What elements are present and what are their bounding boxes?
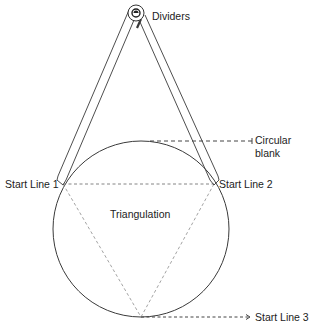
start-line-3-label: Start Line 3 (255, 311, 309, 323)
circular-blank-label-line2: blank (255, 147, 280, 159)
dividers-label: Dividers (152, 10, 190, 22)
cropped-caption-fragment (0, 0, 312, 3)
circular-blank (53, 141, 229, 317)
start-line-2-label: Start Line 2 (219, 178, 273, 190)
start-line-1-label: Start Line 1 (5, 178, 59, 190)
dividers-right-leg (137, 15, 219, 185)
dividers-pivot (128, 5, 144, 21)
triangulation-label: Triangulation (110, 208, 170, 220)
dividers-triangulation-diagram (0, 0, 312, 324)
dividers-left-leg (57, 10, 134, 185)
circular-blank-label-line1: Circular (255, 134, 291, 146)
